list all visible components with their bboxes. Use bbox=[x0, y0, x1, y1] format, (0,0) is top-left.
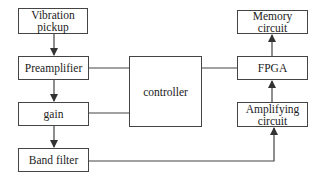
band-filter-label: Band filter bbox=[29, 154, 79, 166]
gain-block: gain bbox=[18, 102, 89, 126]
amplifying-circuit-block: Amplifying circuit bbox=[237, 102, 308, 127]
gain-label: gain bbox=[44, 108, 64, 120]
band-filter-block: Band filter bbox=[18, 148, 89, 172]
preamplifier-block: Preamplifier bbox=[18, 56, 89, 80]
vibration-pickup-block: Vibration pickup bbox=[18, 8, 88, 34]
edge-bandfilter-to-amplifying bbox=[89, 128, 274, 161]
amplifying-circuit-label: Amplifying circuit bbox=[238, 103, 307, 127]
controller-label: controller bbox=[143, 86, 188, 98]
fpga-block: FPGA bbox=[237, 56, 308, 80]
memory-circuit-block: Memory circuit bbox=[237, 10, 308, 34]
memory-circuit-label: Memory circuit bbox=[238, 10, 307, 34]
preamplifier-label: Preamplifier bbox=[25, 62, 82, 74]
vibration-pickup-label: Vibration pickup bbox=[19, 9, 87, 33]
controller-block: controller bbox=[129, 56, 202, 127]
fpga-label: FPGA bbox=[258, 62, 287, 74]
